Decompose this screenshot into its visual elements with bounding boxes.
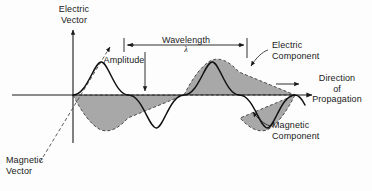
magnetic-vector-label: Magnetic Vector: [6, 155, 68, 176]
figure-canvas: Electric Vector Magnetic Vector Waveleng…: [0, 0, 372, 191]
direction-of-propagation-label: Direction of Propagation: [304, 73, 370, 105]
electric-vector-label: Electric Vector: [43, 4, 105, 25]
amplitude-label: Amplitude: [93, 55, 155, 66]
wavelength-label: Wavelength: [130, 35, 242, 46]
wavelength-symbol-label: λ: [130, 45, 242, 56]
magnetic-component-label: Magnetic Component: [272, 120, 368, 141]
electric-component-leader: [251, 50, 268, 66]
electric-component-label: Electric Component: [272, 40, 368, 61]
